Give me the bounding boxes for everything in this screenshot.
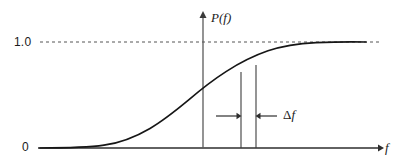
x-axis-name-label: f — [385, 140, 389, 156]
y-axis-name-label: P(f) — [211, 10, 231, 26]
y-axis-arrow-icon — [200, 11, 207, 18]
x-axis-arrow-icon — [378, 144, 384, 151]
y-axis-tick-label-zero: 0 — [22, 140, 29, 154]
delta-f-annotation-label: Δf — [283, 107, 295, 123]
delta-variable-symbol: f — [291, 107, 295, 122]
y-axis-tick-label-one: 1.0 — [14, 35, 31, 49]
figure-container: 1.0 0 P(f) f Δf — [0, 0, 397, 164]
plot-canvas — [0, 0, 397, 164]
